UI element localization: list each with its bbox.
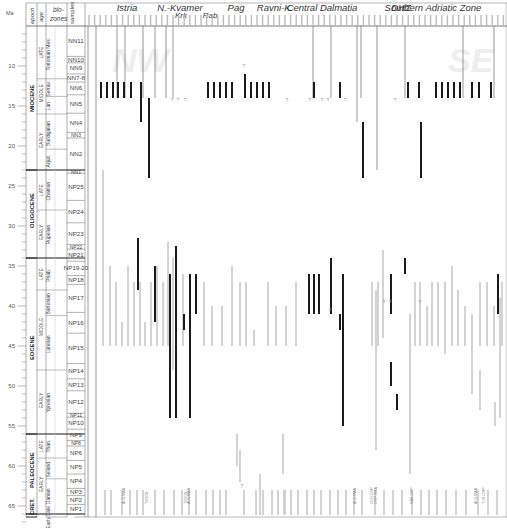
- question-mark: ?: [394, 97, 397, 103]
- biozone-label: NP4: [70, 477, 83, 484]
- age-label: Than.: [45, 440, 51, 453]
- question-mark: ?: [419, 299, 422, 305]
- biozone-label: NP11: [70, 412, 82, 418]
- question-mark: ?: [389, 299, 392, 305]
- region-label: Central Dalmatia: [287, 2, 358, 13]
- region-label: Krk: [175, 11, 188, 20]
- axis-tick-label: 35: [8, 263, 15, 269]
- biozone-label: NP23: [68, 230, 84, 237]
- annotation-label: ALB-MAA: [122, 488, 126, 504]
- annotation-label: ALB-MAA: [353, 488, 357, 504]
- subepoch-label: LATE: [39, 184, 44, 196]
- biozone-label: NP1: [70, 505, 83, 512]
- annotation-label: SAN-CMP: [410, 487, 414, 504]
- annotation-label: ALB-MAA: [187, 488, 191, 504]
- region-label: Southern Adriatic Zone: [385, 2, 482, 13]
- epoch-label: EOCENE: [29, 335, 35, 360]
- biozone-label: NP22: [70, 244, 83, 250]
- subepoch-label: EARLY: [39, 476, 44, 492]
- biozone-label: NN10: [68, 56, 84, 63]
- region-label: Istria: [117, 2, 138, 13]
- biozone-label: NN1: [71, 169, 81, 175]
- header-age: age: [38, 11, 44, 22]
- age-label: Serrav.: [45, 81, 51, 97]
- question-mark: ?: [286, 97, 289, 103]
- biozone-label: NN7-8: [67, 74, 85, 81]
- axis-tick-label: 30: [8, 223, 15, 229]
- axis-tick-label: 65: [8, 503, 15, 509]
- biozone-label: NP9: [70, 431, 83, 438]
- question-mark: ?: [344, 97, 347, 103]
- header-biozones: zones: [49, 15, 68, 22]
- question-mark: ?: [327, 97, 330, 103]
- biozone-label: NP16: [68, 319, 84, 326]
- question-mark: ?: [171, 97, 174, 103]
- age-label: Burdigalian: [45, 121, 51, 146]
- question-mark: ?: [243, 63, 246, 69]
- age-label: Early Late: [45, 506, 51, 529]
- age-label: Lutetian: [45, 335, 51, 353]
- region-label: Pag: [228, 2, 246, 13]
- biozone-label: NP12: [68, 398, 84, 405]
- biozone-label: NN4: [70, 119, 83, 126]
- age-label: Aquit.: [45, 155, 51, 168]
- biozone-label: NP14: [68, 367, 84, 374]
- annotation-label: TEROB: [145, 491, 149, 504]
- subepoch-label: LATE: [39, 268, 44, 280]
- axis-tick-label: 60: [8, 463, 15, 469]
- biozone-label: NP8: [71, 440, 81, 446]
- header-samples: samples: [69, 2, 75, 24]
- biozone-label: NP5: [70, 463, 83, 470]
- biozone-label: NN6: [70, 84, 83, 91]
- subepoch-label: LATE: [39, 47, 44, 59]
- biozone-label: NP25: [68, 183, 84, 190]
- age-label: Tortonian Mes.: [45, 38, 51, 71]
- biozone-label: NN2: [70, 150, 83, 157]
- epoch-label: CRET.: [29, 498, 35, 515]
- region-label: Rab: [203, 11, 218, 20]
- question-mark: ?: [241, 483, 244, 489]
- biozone-label: NP6: [70, 449, 83, 456]
- biozone-label: NP15: [68, 344, 84, 351]
- subepoch-label: EARLY: [39, 392, 44, 408]
- biozone-label: NP21: [68, 251, 84, 258]
- axis-tick-label: 20: [8, 143, 15, 149]
- axis-tick-label: 50: [8, 383, 15, 389]
- epoch-label: OLIGOCENE: [29, 193, 35, 228]
- question-mark: ?: [184, 97, 187, 103]
- axis-tick-label: 25: [8, 183, 15, 189]
- annotation-label: ALB-MAA: [474, 488, 478, 504]
- age-label: Priab.: [45, 269, 51, 282]
- header-biozones: bio-: [53, 6, 65, 13]
- biozone-label: NP18: [68, 276, 84, 283]
- watermark-text: NW: [112, 41, 172, 79]
- epoch-label: MIOCENE: [29, 85, 35, 112]
- age-label: Rupelian: [45, 224, 51, 244]
- biozone-label: NP19-20: [64, 264, 89, 271]
- range-chart: NWSE101520253035404550556065Maepochagebi…: [0, 0, 507, 529]
- subepoch-label: LATE: [39, 440, 44, 452]
- subepoch-label: EARLY: [39, 224, 44, 240]
- annotation-label: CMP-MAA: [374, 486, 378, 504]
- subepoch-label: MIDDLE: [39, 318, 44, 336]
- biozone-label: NP3: [70, 488, 83, 495]
- axis-label: Ma: [6, 10, 15, 16]
- header-epoch: epoch: [29, 7, 35, 24]
- chart-svg: NWSE101520253035404550556065Maepochagebi…: [0, 0, 507, 529]
- biozone-label: NP10: [68, 419, 84, 426]
- subepoch-label: MIDDLE: [39, 84, 44, 102]
- biozone-label: NP2: [70, 496, 83, 503]
- age-label: Chattian: [45, 182, 51, 201]
- axis-tick-label: 55: [8, 423, 15, 429]
- annotation-label: TUR-CMP: [482, 487, 486, 504]
- biozone-label: NP17: [68, 294, 84, 301]
- epoch-label: PALEOCENE: [29, 452, 35, 488]
- axis-tick-label: 45: [8, 343, 15, 349]
- biozone-label: NP24: [68, 208, 84, 215]
- biozone-label: NN11: [68, 37, 84, 44]
- question-mark: ?: [329, 307, 332, 313]
- biozone-label: NN9: [70, 64, 83, 71]
- subepoch-label: EARLY: [39, 132, 44, 148]
- biozone-label: NN5: [70, 100, 83, 107]
- axis-tick-label: 10: [8, 63, 15, 69]
